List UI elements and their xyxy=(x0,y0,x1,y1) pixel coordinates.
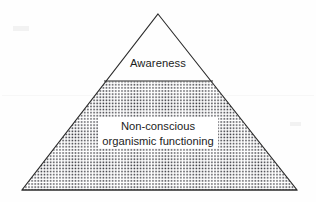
tier-label-nonconscious: Non-conscious organismic functioning xyxy=(98,119,218,148)
pyramid-shape xyxy=(0,0,316,202)
lower-tier-label-box: Non-conscious organismic functioning xyxy=(98,117,218,148)
nonconscious-label-line-1: Non-conscious xyxy=(121,120,195,132)
nonconscious-label-line-2: organismic functioning xyxy=(102,135,213,147)
pyramid-diagram: Awareness Non-conscious organismic funct… xyxy=(0,0,316,202)
tier-label-awareness: Awareness xyxy=(0,57,316,70)
